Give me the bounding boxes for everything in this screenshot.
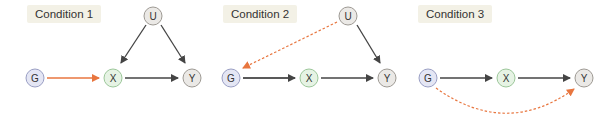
p2-node-y: Y: [378, 69, 396, 87]
svg-text:Y: Y: [581, 73, 588, 84]
p3-node-g: G: [419, 69, 437, 87]
p2-node-u: U: [339, 7, 357, 25]
edge-u-x: [121, 25, 146, 63]
p1-node-g: G: [26, 69, 44, 87]
svg-text:X: X: [503, 73, 510, 84]
svg-text:G: G: [424, 73, 432, 84]
svg-text:X: X: [306, 73, 313, 84]
svg-text:U: U: [344, 11, 351, 22]
p1-node-u: U: [144, 7, 162, 25]
svg-text:G: G: [31, 73, 39, 84]
svg-text:Y: Y: [189, 73, 196, 84]
svg-text:U: U: [149, 11, 156, 22]
edge-u-y: [161, 25, 185, 63]
svg-text:G: G: [227, 73, 235, 84]
p2-node-x: X: [300, 69, 318, 87]
svg-text:X: X: [110, 73, 117, 84]
p2-node-g: G: [222, 69, 240, 87]
svg-text:Y: Y: [384, 73, 391, 84]
edge-u-g: [243, 22, 337, 68]
p3-node-x: X: [497, 69, 515, 87]
causal-diagrams: U G X Y U G X Y G X Y: [0, 0, 616, 119]
edge-g-y-curved: [436, 88, 574, 113]
p1-node-y: Y: [183, 69, 201, 87]
p1-node-x: X: [104, 69, 122, 87]
p3-node-y: Y: [575, 69, 593, 87]
edge-u-y: [357, 25, 380, 63]
